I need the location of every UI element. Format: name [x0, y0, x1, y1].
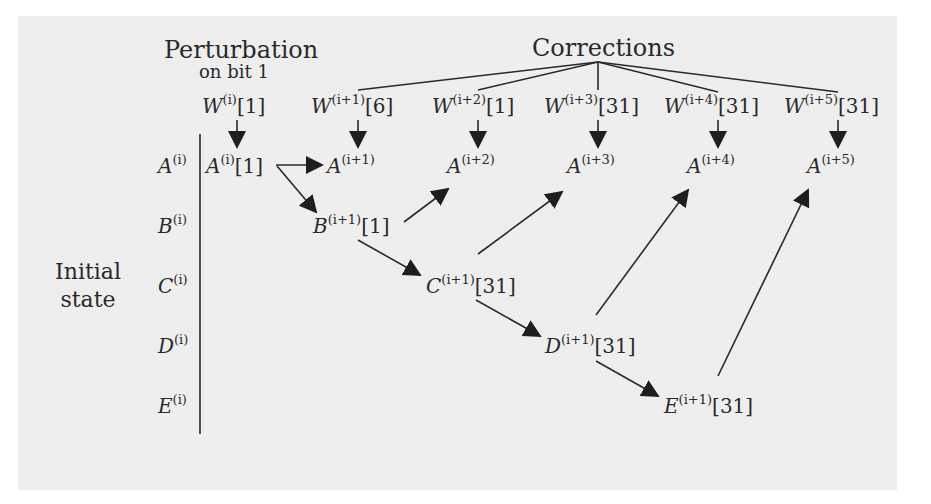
arrow-b1-a2: [404, 189, 448, 222]
word-w2-bit: [1]: [486, 94, 514, 118]
node-a4-base: A: [687, 154, 701, 178]
register-c-initial: C(i): [158, 276, 188, 296]
node-c1-exp: (i+1): [441, 272, 474, 287]
word-w1: W(i+1)[6]: [311, 96, 393, 116]
word-w5-exp: (i+5): [805, 92, 838, 107]
register-b-base: B: [158, 214, 173, 238]
node-a0: A(i)[1]: [206, 156, 263, 176]
word-w1-bit: [6]: [365, 94, 393, 118]
arrow-d1-a4: [596, 190, 688, 315]
register-b-initial: B(i): [158, 216, 187, 236]
node-e1-exp: (i+1): [679, 392, 712, 407]
node-a3-exp: (i+3): [581, 152, 614, 167]
node-a1-base: A: [327, 154, 341, 178]
corrections-line-1: [358, 62, 598, 90]
corrections-header: Corrections: [532, 36, 675, 60]
node-a5: A(i+5): [807, 156, 855, 176]
arrow-b1-c1: [358, 240, 420, 275]
node-b1-base: B: [313, 214, 328, 238]
word-w2-base: W: [432, 94, 453, 118]
perturbation-header: Perturbation: [164, 38, 318, 62]
arrow-a0-b1: [277, 166, 316, 212]
word-w2-exp: (i+2): [453, 92, 486, 107]
diagram-canvas: Perturbation on bit 1 Corrections Initia…: [0, 0, 931, 504]
word-w4-exp: (i+4): [685, 92, 718, 107]
node-c1-base: C: [426, 274, 441, 298]
word-w0: W(i)[1]: [202, 96, 265, 116]
word-w0-base: W: [202, 94, 223, 118]
word-w1-base: W: [311, 94, 332, 118]
node-a0-bit: [1]: [235, 154, 263, 178]
node-a1-exp: (i+1): [341, 152, 374, 167]
word-w0-bit: [1]: [237, 94, 265, 118]
node-a5-base: A: [807, 154, 821, 178]
register-d-base: D: [158, 334, 174, 358]
node-e1: E(i+1)[31]: [664, 396, 753, 416]
corrections-line-5: [598, 62, 838, 92]
node-d1-bit: [31]: [595, 334, 636, 358]
register-c-base: C: [158, 274, 173, 298]
word-w4-base: W: [664, 94, 685, 118]
node-b1-exp: (i+1): [328, 212, 361, 227]
word-w2: W(i+2)[1]: [432, 96, 514, 116]
word-w3-bit: [31]: [598, 94, 639, 118]
corrections-line-4: [598, 62, 718, 92]
node-a0-base: A: [206, 154, 220, 178]
initial-state-label: Initial state: [28, 258, 148, 314]
corrections-line-2: [478, 62, 598, 90]
word-w3-exp: (i+3): [565, 92, 598, 107]
node-b1: B(i+1)[1]: [313, 216, 390, 236]
node-b1-bit: [1]: [361, 214, 389, 238]
register-d-initial: D(i): [158, 336, 188, 356]
arrow-e1-a5: [718, 190, 808, 376]
diagram-edges: [0, 0, 931, 504]
register-e-exp: (i): [173, 392, 187, 407]
register-b-exp: (i): [173, 212, 187, 227]
node-d1-exp: (i+1): [561, 332, 594, 347]
node-a0-exp: (i): [220, 152, 234, 167]
node-c1-bit: [31]: [475, 274, 516, 298]
word-w4: W(i+4)[31]: [664, 96, 759, 116]
node-a2-base: A: [447, 154, 461, 178]
node-a2: A(i+2): [447, 156, 495, 176]
node-a3-base: A: [567, 154, 581, 178]
arrow-c1-a3: [478, 192, 562, 254]
initial-state-line2: state: [28, 286, 148, 314]
node-d1-base: D: [545, 334, 561, 358]
register-e-initial: E(i): [158, 396, 187, 416]
register-c-exp: (i): [173, 272, 187, 287]
register-a-exp: (i): [172, 152, 186, 167]
perturbation-subheader: on bit 1: [199, 63, 269, 81]
word-w5-bit: [31]: [838, 94, 879, 118]
word-w3-base: W: [544, 94, 565, 118]
node-e1-base: E: [664, 394, 679, 418]
register-a-initial: A(i): [158, 156, 187, 176]
register-e-base: E: [158, 394, 173, 418]
arrow-d1-e1: [596, 361, 658, 396]
register-a-base: A: [158, 154, 172, 178]
node-a4-exp: (i+4): [701, 152, 734, 167]
node-a4: A(i+4): [687, 156, 735, 176]
node-c1: C(i+1)[31]: [426, 276, 516, 296]
node-a5-exp: (i+5): [821, 152, 854, 167]
word-w5: W(i+5)[31]: [784, 96, 879, 116]
register-d-exp: (i): [174, 332, 188, 347]
word-w1-exp: (i+1): [332, 92, 365, 107]
word-w3: W(i+3)[31]: [544, 96, 639, 116]
arrow-c1-d1: [476, 300, 540, 336]
word-w0-exp: (i): [223, 92, 237, 107]
initial-state-line1: Initial: [28, 258, 148, 286]
node-d1: D(i+1)[31]: [545, 336, 636, 356]
node-a2-exp: (i+2): [461, 152, 494, 167]
node-e1-bit: [31]: [712, 394, 753, 418]
word-w4-bit: [31]: [718, 94, 759, 118]
node-a1: A(i+1): [327, 156, 375, 176]
node-a3: A(i+3): [567, 156, 615, 176]
word-w5-base: W: [784, 94, 805, 118]
